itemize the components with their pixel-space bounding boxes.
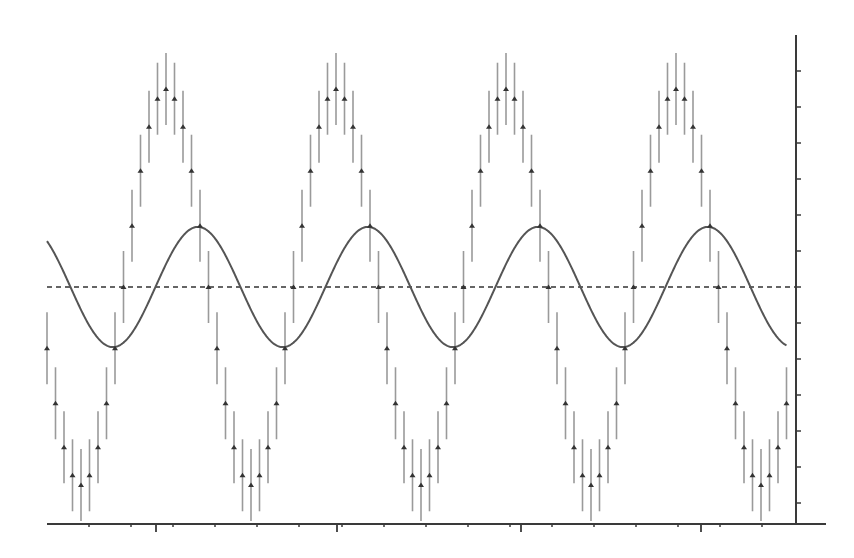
triangle-marker-icon [435,445,441,450]
triangle-marker-icon [775,445,781,450]
triangle-marker-icon [53,401,59,406]
triangle-marker-icon [172,96,178,101]
triangle-marker-icon [597,473,603,478]
plot-area [0,0,854,558]
triangle-marker-icon [308,168,314,173]
triangle-marker-icon [393,401,399,406]
triangle-marker-icon [367,223,373,228]
triangle-marker-icon [537,223,543,228]
triangle-marker-icon [699,168,705,173]
triangle-marker-icon [231,445,237,450]
triangle-marker-icon [563,401,569,406]
triangle-marker-icon [384,346,390,351]
triangle-marker-icon [614,401,620,406]
triangle-marker-icon [690,124,696,129]
triangle-marker-icon [758,483,764,488]
chart [0,0,854,558]
triangle-marker-icon [342,96,348,101]
triangle-marker-icon [767,473,773,478]
triangle-marker-icon [197,223,203,228]
axes [47,35,826,532]
triangle-marker-icon [61,445,67,450]
triangle-marker-icon [163,87,169,92]
triangle-marker-icon [741,445,747,450]
triangle-marker-icon [359,168,365,173]
triangle-marker-icon [299,223,305,228]
triangle-marker-icon [580,473,586,478]
triangle-marker-icon [410,473,416,478]
triangle-marker-icon [588,483,594,488]
triangle-marker-icon [427,473,433,478]
triangle-marker-icon [333,87,339,92]
triangle-marker-icon [257,473,263,478]
triangle-marker-icon [95,445,101,450]
triangle-marker-icon [155,96,161,101]
triangle-marker-icon [129,223,135,228]
triangle-marker-icon [682,96,688,101]
triangle-marker-icon [512,96,518,101]
triangle-marker-icon [665,96,671,101]
triangle-marker-icon [240,473,246,478]
triangle-marker-icon [503,87,509,92]
triangle-marker-icon [87,473,93,478]
triangle-marker-icon [478,168,484,173]
triangle-marker-icon [648,168,654,173]
triangle-marker-icon [189,168,195,173]
triangle-marker-icon [529,168,535,173]
triangle-marker-icon [325,96,331,101]
triangle-marker-icon [444,401,450,406]
triangle-marker-icon [486,124,492,129]
triangle-marker-icon [707,223,713,228]
triangle-marker-icon [274,401,280,406]
triangle-marker-icon [571,445,577,450]
triangle-marker-icon [265,445,271,450]
triangle-marker-icon [146,124,152,129]
triangle-marker-icon [248,483,254,488]
triangle-marker-icon [784,401,790,406]
triangle-marker-icon [724,346,730,351]
triangle-marker-icon [44,346,50,351]
triangle-marker-icon [520,124,526,129]
triangle-marker-icon [673,87,679,92]
triangle-marker-icon [418,483,424,488]
triangle-marker-icon [469,223,475,228]
triangle-marker-icon [214,346,220,351]
triangle-marker-icon [495,96,501,101]
triangle-marker-icon [401,445,407,450]
triangle-marker-icon [223,401,229,406]
triangle-marker-icon [554,346,560,351]
triangle-marker-icon [138,168,144,173]
triangle-marker-icon [750,473,756,478]
triangle-marker-icon [316,124,322,129]
triangle-marker-icon [733,401,739,406]
triangle-marker-icon [656,124,662,129]
triangle-marker-icon [104,401,110,406]
triangle-marker-icon [605,445,611,450]
triangle-marker-icon [180,124,186,129]
triangle-marker-icon [78,483,84,488]
triangle-marker-icon [639,223,645,228]
triangle-marker-icon [350,124,356,129]
triangle-marker-icon [70,473,76,478]
